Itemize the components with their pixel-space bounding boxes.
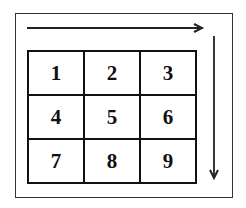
grid-cell: 8: [84, 139, 140, 183]
number-grid: 1 2 3 4 5 6 7 8 9: [27, 50, 197, 184]
grid-row: 7 8 9: [28, 139, 196, 183]
grid-cell: 7: [28, 139, 84, 183]
grid-row: 1 2 3: [28, 51, 196, 95]
grid-cell: 5: [84, 95, 140, 139]
grid-cell: 4: [28, 95, 84, 139]
grid-cell: 9: [140, 139, 196, 183]
arrow-right-icon: [27, 24, 202, 32]
grid-row: 4 5 6: [28, 95, 196, 139]
grid-cell: 6: [140, 95, 196, 139]
grid-cell: 1: [28, 51, 84, 95]
arrow-down-icon: [210, 36, 218, 178]
grid-cell: 2: [84, 51, 140, 95]
grid-cell: 3: [140, 51, 196, 95]
